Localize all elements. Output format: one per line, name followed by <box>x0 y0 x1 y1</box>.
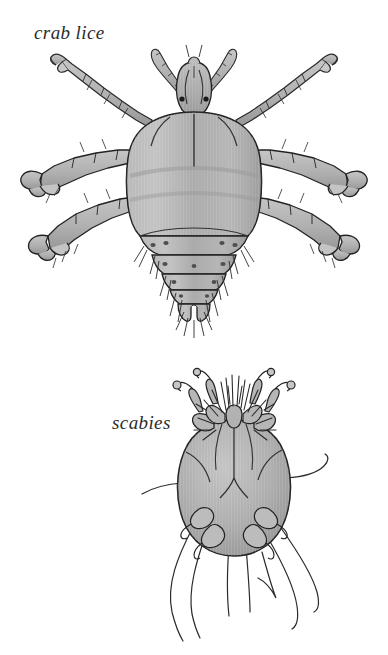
louse-head <box>177 45 212 116</box>
louse-right-leg-2 <box>246 150 367 197</box>
crab-louse-figure <box>21 45 367 338</box>
louse-left-leg-2 <box>21 150 142 197</box>
louse-left-leg-3 <box>28 196 144 260</box>
louse-left-eye <box>179 96 184 101</box>
caption-crab-lice: crab lice <box>34 22 105 44</box>
louse-right-leg-3 <box>244 196 360 260</box>
louse-thorax <box>127 112 262 236</box>
louse-left-leg-1 <box>51 54 152 128</box>
louse-right-eye <box>203 96 208 101</box>
louse-abdomen <box>134 228 254 338</box>
louse-right-leg-1 <box>236 54 337 128</box>
parasite-illustration-plate <box>0 0 388 655</box>
mite-body <box>177 405 290 556</box>
scabies-mite-figure <box>142 368 328 641</box>
caption-scabies: scabies <box>112 412 171 434</box>
